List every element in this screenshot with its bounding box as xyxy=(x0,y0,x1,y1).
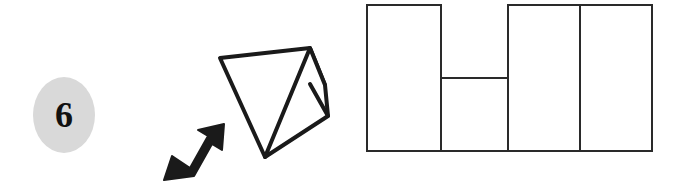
folded-paper-shape xyxy=(220,48,328,157)
folded-paper-stimulus xyxy=(150,40,350,185)
panel-3 xyxy=(508,5,580,151)
panel-1 xyxy=(367,5,441,151)
unfolded-pattern-figure xyxy=(355,0,675,170)
panel-4 xyxy=(580,5,652,151)
fold-direction-arrow xyxy=(164,124,224,180)
panel-2 xyxy=(441,78,509,151)
question-number-badge: 6 xyxy=(33,77,95,153)
question-canvas: 6 xyxy=(0,0,691,188)
question-number-label: 6 xyxy=(33,77,95,153)
